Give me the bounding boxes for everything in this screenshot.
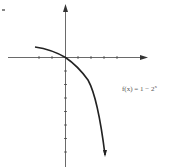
function-label: f(x) = 1 − 2x xyxy=(122,84,157,93)
curve-arrow-icon xyxy=(103,150,107,157)
y-axis-arrow-icon xyxy=(63,4,68,12)
function-label-exponent: x xyxy=(154,84,157,89)
function-curve xyxy=(35,47,105,155)
function-label-text: f(x) = 1 − 2 xyxy=(122,85,154,93)
x-axis-arrow-icon xyxy=(140,55,148,60)
